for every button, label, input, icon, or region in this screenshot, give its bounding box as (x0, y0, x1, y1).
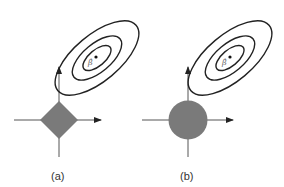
panel-b: β̂ (b) (142, 8, 284, 182)
lasso-ridge-diagram: β̂ (a) β̂ (b) (0, 0, 284, 187)
beta-hat-label: β̂ (87, 58, 93, 67)
beta-hat-label: β̂ (221, 58, 227, 67)
ridge-circle-constraint (169, 101, 208, 140)
panel-label-a: (a) (51, 170, 64, 182)
lasso-diamond-constraint (40, 101, 78, 139)
panel-label-b: (b) (180, 170, 193, 182)
estimate-point (228, 55, 231, 58)
panel-a: β̂ (a) (14, 8, 151, 182)
estimate-point (94, 55, 97, 58)
